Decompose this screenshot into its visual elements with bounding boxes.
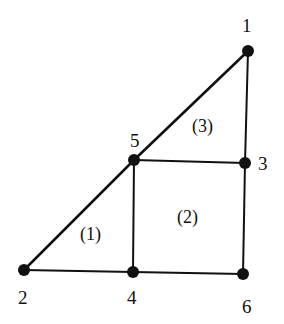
edge-4-6: [133, 272, 243, 274]
node-6: [237, 268, 249, 280]
element-label-1: (1): [80, 224, 101, 245]
node-label-1: 1: [242, 15, 252, 36]
edge-5-3: [134, 160, 245, 163]
element-labels: (1) (2) (3): [80, 116, 213, 245]
node-4: [127, 266, 139, 278]
mesh-diagram: 1 2 3 4 5 6 (1) (2) (3): [0, 0, 284, 324]
node-label-4: 4: [127, 287, 137, 308]
node-label-2: 2: [18, 287, 28, 308]
edge-1-3: [245, 51, 248, 163]
node-label-6: 6: [242, 296, 252, 317]
node-label-5: 5: [130, 130, 140, 151]
node-5: [128, 154, 140, 166]
node-2: [18, 264, 30, 276]
edge-1-5: [134, 51, 248, 160]
edge-3-6: [243, 163, 245, 274]
edge-2-4: [24, 270, 133, 272]
element-label-2: (2): [177, 207, 198, 228]
element-label-3: (3): [192, 116, 213, 137]
edge-5-2: [24, 160, 134, 270]
node-3: [239, 157, 251, 169]
node-1: [242, 45, 254, 57]
node-label-3: 3: [258, 153, 268, 174]
edge-5-4: [133, 160, 134, 272]
